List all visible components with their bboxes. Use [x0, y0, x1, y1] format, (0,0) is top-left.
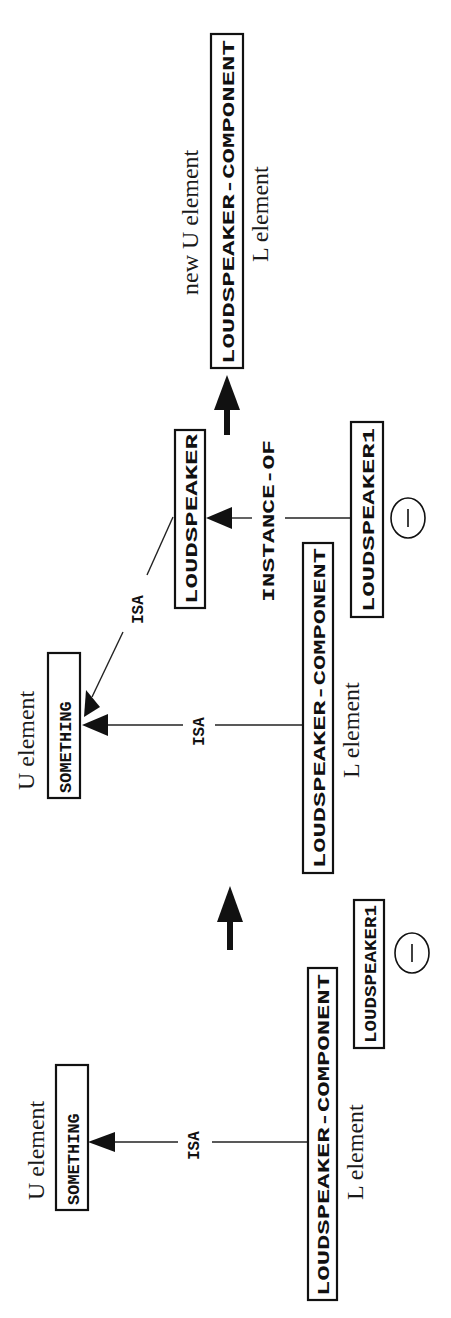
node-something: SOMETHING: [65, 1113, 84, 1205]
arrowhead-icon: [206, 507, 232, 529]
minus-circle-icon: [395, 933, 429, 973]
u-element-label: U element: [23, 1100, 49, 1200]
isa-label: ISA: [186, 1131, 204, 1160]
node-something: SOMETHING: [57, 701, 76, 793]
node-loudspeaker-component: LOUDSPEAKER-COMPONENT: [315, 974, 334, 1296]
l-element-label: L element: [338, 682, 364, 778]
transition-arrow-icon: [217, 886, 243, 950]
isa-edge-diagonal-lower: [92, 632, 123, 697]
arrowhead-icon: [88, 1132, 115, 1152]
panel-after: new U element LOUDSPEAKER-COMPONENT L el…: [177, 34, 273, 368]
instance-of-label: INSTANCE-OF: [261, 440, 279, 602]
u-element-label: U element: [13, 690, 39, 790]
node-loudspeaker-component: LOUDSPEAKER-COMPONENT: [311, 548, 330, 868]
diagram-canvas: U element SOMETHING ISA LOUDSPEAKER-COMP…: [0, 0, 451, 1318]
l-element-label: L element: [247, 166, 273, 262]
node-loudspeaker-component: LOUDSPEAKER-COMPONENT: [220, 40, 239, 364]
panel-middle: U element SOMETHING ISA ISA LOUDSPEAKER …: [13, 422, 425, 873]
l-element-label: L element: [342, 1104, 368, 1200]
minus-circle-icon: [391, 498, 425, 538]
transition-arrow-icon: [214, 375, 240, 435]
isa-label-horizontal: ISA: [191, 717, 209, 746]
isa-label-diagonal: ISA: [130, 595, 148, 624]
node-loudspeaker: LOUDSPEAKER: [183, 433, 202, 604]
panel-before: U element SOMETHING ISA LOUDSPEAKER-COMP…: [23, 900, 429, 1300]
arrowhead-icon: [84, 690, 100, 717]
new-u-element-label: new U element: [177, 149, 203, 295]
node-loudspeaker1: LOUDSPEAKER1: [360, 428, 379, 612]
node-loudspeaker1: LOUDSPEAKER1: [362, 905, 381, 1043]
isa-edge-diagonal-upper: [147, 517, 173, 575]
arrowhead-icon: [82, 714, 108, 736]
